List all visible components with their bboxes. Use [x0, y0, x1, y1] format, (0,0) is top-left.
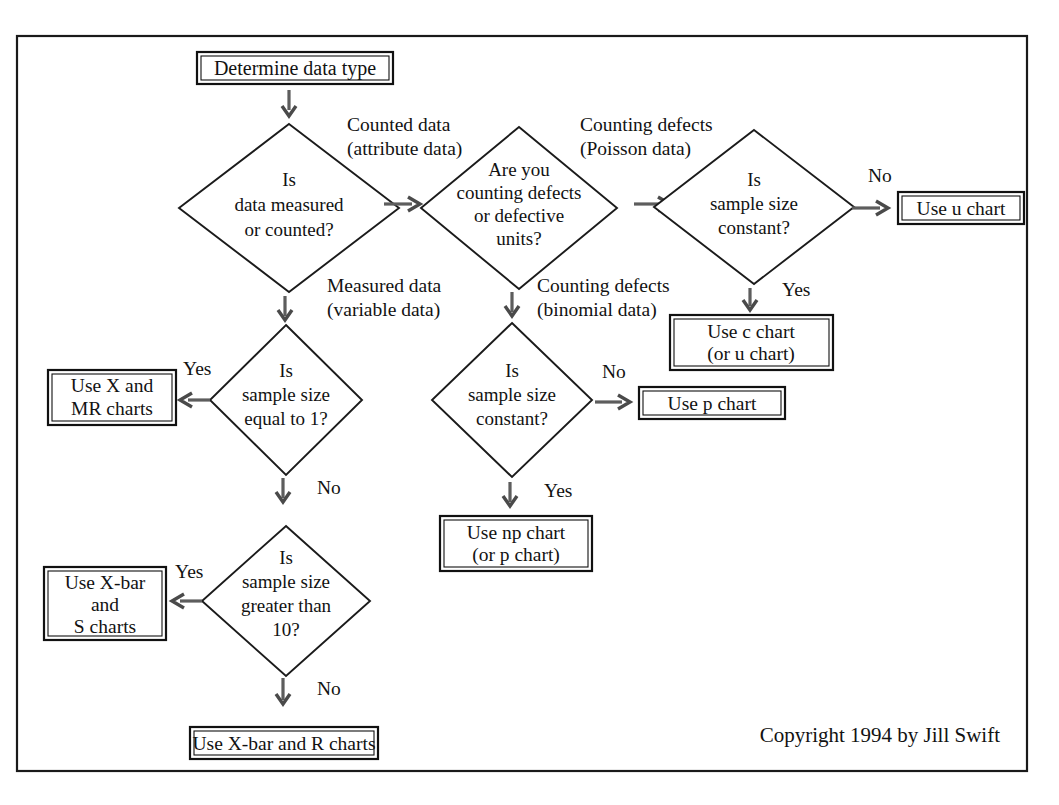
edge-label-d6-yes: Yes: [175, 561, 203, 582]
d6-line2: sample size: [242, 571, 330, 592]
d4-line3: equal to 1?: [244, 408, 327, 429]
edge-label-measured-data: Measured data (variable data): [327, 275, 442, 321]
edge-label-d3-no: No: [868, 165, 892, 186]
np-chart-line2: (or p chart): [472, 544, 560, 566]
node-is-sample-size-equal-to-1[interactable]: Is sample size equal to 1?: [210, 325, 362, 475]
xbar-s-line2: and: [91, 594, 119, 615]
flowchart-canvas: Determine data type Is data measured or …: [0, 0, 1059, 805]
node-determine-data-type[interactable]: Determine data type: [197, 52, 393, 84]
d3-line1: Is: [747, 169, 761, 190]
counted-line1: Counted data: [347, 114, 451, 135]
d6-line1: Is: [279, 547, 293, 568]
edge-label-d3-yes: Yes: [782, 279, 810, 300]
d2-line2: counting defects: [456, 182, 581, 203]
binomial-line2: (binomial data): [537, 299, 657, 321]
d5-line2: sample size: [468, 384, 556, 405]
connector-d4-to-x-mr: [180, 393, 210, 407]
copyright-notice: Copyright 1994 by Jill Swift: [760, 723, 1001, 747]
counted-line2: (attribute data): [347, 138, 462, 160]
connector-d2-to-d5: [505, 292, 519, 316]
d2-line1: Are you: [488, 159, 550, 180]
xbar-r-label: Use X-bar and R charts: [192, 733, 375, 754]
d2-line3: or defective: [474, 205, 564, 226]
d1-line3: or counted?: [244, 219, 333, 240]
edge-label-binomial-data: Counting defects (binomial data): [537, 275, 670, 321]
node-use-c-chart[interactable]: Use c chart (or u chart): [670, 315, 833, 370]
node-use-np-chart[interactable]: Use np chart (or p chart): [440, 516, 592, 571]
node-determine-data-type-label: Determine data type: [214, 57, 376, 80]
node-use-p-chart[interactable]: Use p chart: [639, 387, 785, 419]
connector-d1-to-d4: [278, 296, 292, 320]
poisson-line2: (Poisson data): [580, 138, 691, 160]
node-use-xbar-and-s-charts[interactable]: Use X-bar and S charts: [44, 567, 166, 640]
d5-line3: constant?: [476, 408, 548, 429]
x-mr-line1: Use X and: [71, 375, 154, 396]
flowchart-page: Determine data type Is data measured or …: [0, 0, 1059, 805]
xbar-s-line3: S charts: [74, 616, 136, 637]
node-is-sample-size-constant-binomial[interactable]: Is sample size constant?: [432, 323, 592, 477]
connector-d5-to-np-chart: [503, 482, 517, 506]
x-mr-line2: MR charts: [71, 398, 153, 419]
c-chart-line1: Use c chart: [707, 321, 795, 342]
poisson-line1: Counting defects: [580, 114, 713, 135]
u-chart-label: Use u chart: [917, 198, 1006, 219]
node-use-x-and-mr-charts[interactable]: Use X and MR charts: [48, 370, 176, 425]
measured-line1: Measured data: [327, 275, 442, 296]
edge-label-d4-yes: Yes: [183, 358, 211, 379]
connector-start-to-d1: [282, 90, 296, 116]
connector-d3-to-u-chart: [852, 201, 888, 215]
d3-line3: constant?: [718, 217, 790, 238]
p-chart-label: Use p chart: [668, 393, 757, 414]
d6-line4: 10?: [272, 619, 299, 640]
edge-label-d5-no: No: [602, 361, 626, 382]
d3-line2: sample size: [710, 193, 798, 214]
edge-label-d4-no: No: [317, 477, 341, 498]
d5-line1: Is: [505, 360, 519, 381]
node-use-xbar-and-r-charts[interactable]: Use X-bar and R charts: [190, 727, 378, 759]
edge-label-counted-data: Counted data (attribute data): [347, 114, 462, 160]
d1-line2: data measured: [234, 194, 344, 215]
c-chart-line2: (or u chart): [707, 343, 795, 365]
node-use-u-chart[interactable]: Use u chart: [898, 192, 1024, 224]
connector-d6-to-xbar-r: [276, 678, 290, 704]
d6-line3: greater than: [241, 595, 332, 616]
edge-label-poisson-data: Counting defects (Poisson data): [580, 114, 713, 160]
xbar-s-line1: Use X-bar: [65, 572, 146, 593]
d1-line1: Is: [282, 169, 296, 190]
node-is-sample-size-greater-than-10[interactable]: Is sample size greater than 10?: [202, 526, 370, 676]
measured-line2: (variable data): [327, 299, 440, 321]
d4-line2: sample size: [242, 384, 330, 405]
edge-label-d6-no: No: [317, 678, 341, 699]
connector-d5-to-p-chart: [595, 395, 630, 409]
connector-d4-to-d6: [276, 478, 290, 502]
np-chart-line1: Use np chart: [467, 522, 566, 543]
binomial-line1: Counting defects: [537, 275, 670, 296]
d2-line4: units?: [496, 228, 541, 249]
connector-d6-to-xbar-s: [172, 594, 202, 608]
connector-d3-to-c-chart: [743, 288, 757, 310]
d4-line1: Is: [279, 360, 293, 381]
edge-label-d5-yes: Yes: [544, 480, 572, 501]
